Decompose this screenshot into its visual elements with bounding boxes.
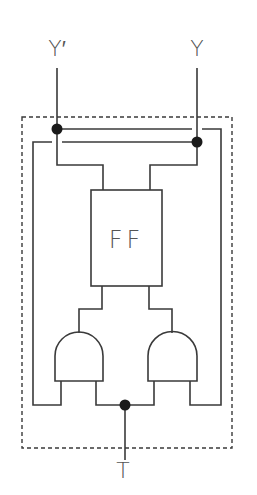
junction-dot-y-prime <box>52 124 63 135</box>
flip-flop: FF <box>91 190 162 286</box>
and-gate-right <box>148 332 197 382</box>
flipflop-label: FF <box>109 226 145 254</box>
label-y-prime: Y′ <box>48 36 66 61</box>
ff-to-right-gate-wire <box>149 286 172 333</box>
ff-to-left-gate-wire <box>79 286 102 333</box>
dashed-boundary <box>22 117 232 448</box>
junction-dot-y <box>192 137 203 148</box>
and-gate-left <box>55 332 103 381</box>
circuit-diagram: Y′ Y FF T <box>0 0 257 495</box>
label-y: Y <box>190 36 203 61</box>
junction-dot-t <box>120 400 131 411</box>
label-t: T <box>116 458 129 483</box>
